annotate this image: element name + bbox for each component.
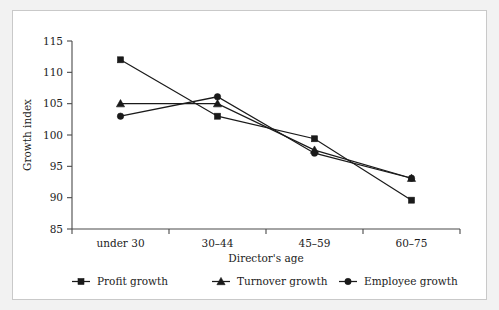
x-axis-title: Director's age <box>228 252 303 264</box>
data-point-marker-circle <box>117 113 123 119</box>
line-chart: 859095100105110115 under 3030–4445–5960–… <box>13 11 486 299</box>
data-point-marker-circle <box>311 150 317 156</box>
screenshot-root: 859095100105110115 under 3030–4445–5960–… <box>0 0 499 310</box>
chart-legend: Profit growthTurnover growthEmployee gro… <box>72 275 458 287</box>
legend-label: Employee growth <box>364 275 458 287</box>
x-tick-label: under 30 <box>96 237 144 249</box>
data-point-marker-square <box>118 57 124 63</box>
y-tick-label: 95 <box>50 160 63 172</box>
y-tick-label: 110 <box>43 66 63 78</box>
y-tick-label: 90 <box>50 191 63 203</box>
figure-panel: 859095100105110115 under 3030–4445–5960–… <box>12 10 487 300</box>
y-axis-title: Growth index <box>21 99 33 171</box>
data-point-marker-square <box>409 197 415 203</box>
y-tick-label: 85 <box>50 223 63 235</box>
data-point-marker-circle <box>408 175 414 181</box>
y-axis-ticks: 859095100105110115 <box>43 35 72 235</box>
x-axis-ticks: under 3030–4445–5960–75 <box>72 229 460 249</box>
data-point-marker-square <box>312 136 318 142</box>
series-group <box>116 57 415 203</box>
x-tick-label: 30–44 <box>202 237 234 249</box>
y-tick-label: 115 <box>43 35 63 47</box>
series-line-profit-growth <box>121 60 412 200</box>
legend-marker-circle <box>345 278 351 284</box>
data-point-marker-circle <box>214 94 220 100</box>
y-tick-label: 105 <box>43 97 63 109</box>
data-point-marker-square <box>215 113 221 119</box>
legend-label: Profit growth <box>97 275 168 287</box>
x-tick-label: 60–75 <box>396 237 428 249</box>
legend-label: Turnover growth <box>237 275 328 287</box>
legend-marker-square <box>78 279 84 285</box>
x-tick-label: 45–59 <box>299 237 331 249</box>
y-tick-label: 100 <box>43 129 63 141</box>
